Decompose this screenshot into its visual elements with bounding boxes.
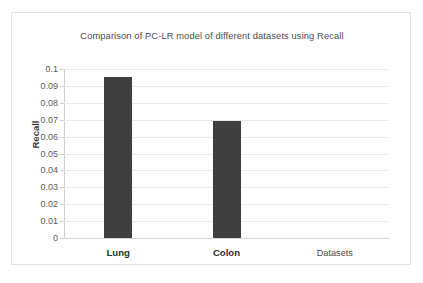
y-axis-tick-mark — [60, 204, 64, 205]
y-axis-tick-label: 0.03 — [40, 182, 58, 192]
chart-title: Comparison of PC-LR model of different d… — [12, 31, 412, 41]
y-axis-tick-label: 0.1 — [45, 64, 58, 74]
x-axis-title: Datasets — [317, 248, 353, 258]
x-axis-category-label: Colon — [213, 247, 240, 258]
bar-colon — [213, 121, 241, 238]
y-axis-tick-mark — [60, 120, 64, 121]
y-axis-tick-label: 0.07 — [40, 115, 58, 125]
plot-area: 0.10.090.080.070.060.050.040.030.020.010… — [64, 69, 389, 238]
y-axis-tick-mark — [60, 137, 64, 138]
y-axis-tick-label: 0 — [53, 233, 58, 243]
y-axis-title: Recall — [30, 121, 41, 149]
y-axis-tick-label: 0.06 — [40, 132, 58, 142]
y-axis-tick-label: 0.05 — [40, 149, 58, 159]
y-axis-tick-mark — [60, 103, 64, 104]
y-axis-tick-mark — [60, 238, 64, 239]
y-axis-tick-mark — [60, 86, 64, 87]
gridline — [64, 238, 389, 239]
y-axis-tick-label: 0.09 — [40, 81, 58, 91]
y-axis-tick-label: 0.04 — [40, 165, 58, 175]
y-axis-tick-mark — [60, 154, 64, 155]
y-axis-tick-mark — [60, 69, 64, 70]
y-axis-tick-label: 0.02 — [40, 199, 58, 209]
y-axis-tick-mark — [60, 221, 64, 222]
bar-lung — [104, 77, 132, 238]
y-axis-tick-label: 0.08 — [40, 98, 58, 108]
gridline — [64, 69, 389, 70]
x-axis-category-label: Lung — [106, 247, 129, 258]
y-axis-tick-mark — [60, 187, 64, 188]
chart-frame: Comparison of PC-LR model of different d… — [11, 12, 411, 265]
y-axis-tick-label: 0.01 — [40, 216, 58, 226]
y-axis-tick-mark — [60, 170, 64, 171]
